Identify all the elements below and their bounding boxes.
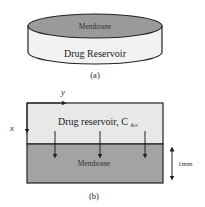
caption-a: (a) [90,70,100,80]
reservoir-label-b: Drug reservoir, C A∞ [58,116,138,128]
reservoir-subscript: A∞ [130,122,138,128]
thickness-label: 1mm [178,160,193,168]
membrane-label-a: Membrane [79,22,112,31]
caption-b: (b) [89,191,99,201]
y-axis-label: y [60,87,65,97]
figure-b-cross-section: y x Drug reservoir, C A∞ Membrane 1mm (b… [9,87,193,201]
diagram-canvas: Membrane Drug Reservoir (a) y x Drug res… [0,0,205,207]
figure-a-cylinder: Membrane Drug Reservoir (a) [28,14,162,80]
x-axis-label: x [9,123,14,133]
reservoir-label-a: Drug Reservoir [64,48,127,59]
membrane-label-b: Membrane [78,159,111,168]
reservoir-label-text: Drug reservoir, C [58,116,128,127]
